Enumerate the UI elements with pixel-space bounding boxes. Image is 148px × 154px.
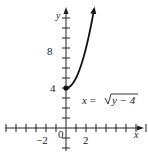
y-axis-arrow-icon [64, 7, 69, 14]
y-tick-label-4: 4 [50, 82, 56, 94]
equation-label: x = y − 4 [81, 94, 138, 106]
x-tick-label-2: 2 [83, 134, 89, 146]
graph: y x 8 4 −2 0 2 x = y − 4 [0, 0, 148, 154]
equation-radicand: y − 4 [111, 94, 136, 106]
origin-label: 0 [58, 128, 64, 140]
equation-lhs: x = [81, 94, 96, 106]
start-point [63, 85, 68, 90]
x-axis-label: x [133, 129, 139, 140]
curve-arrow-icon [90, 7, 96, 14]
x-axis [5, 124, 148, 132]
x-tick-label-neg2: −2 [36, 134, 48, 146]
curve [66, 12, 94, 88]
y-tick-label-8: 8 [47, 45, 53, 57]
y-axis-label: y [55, 10, 61, 21]
